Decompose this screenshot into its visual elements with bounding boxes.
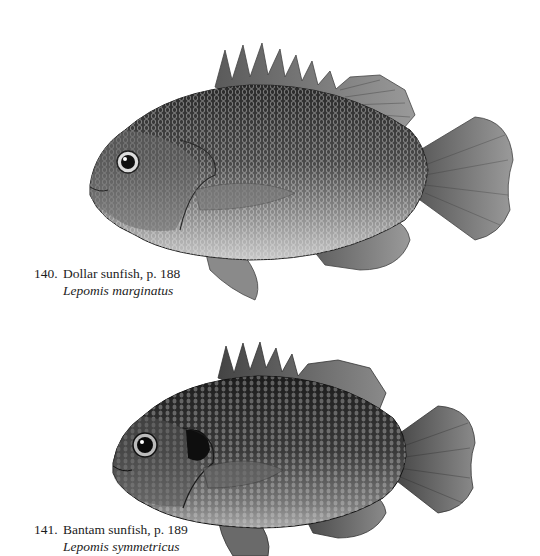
common-name: Bantam sunfish, p. 189 [63,522,188,537]
scientific-name: Lepomis marginatus [34,282,180,299]
scientific-name: Lepomis symmetricus [34,538,188,555]
plate-141: 141.Bantam sunfish, p. 189 Lepomis symme… [0,310,540,556]
plate-141-caption: 141.Bantam sunfish, p. 189 Lepomis symme… [34,521,188,555]
common-name: Dollar sunfish, p. 188 [63,266,180,281]
plate-number: 140. [34,265,63,282]
plate-140: 140.Dollar sunfish, p. 188 Lepomis margi… [0,0,540,310]
plate-140-caption: 140.Dollar sunfish, p. 188 Lepomis margi… [34,265,180,299]
plate-number: 141. [34,521,63,538]
